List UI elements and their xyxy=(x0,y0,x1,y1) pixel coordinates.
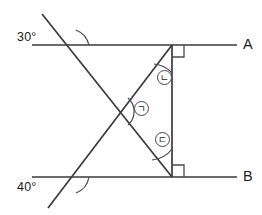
arc-30-degrees xyxy=(76,30,89,45)
angle-label-30: 30° xyxy=(17,31,37,44)
right-angle-bottom-icon xyxy=(172,165,184,177)
angle-label-40: 40° xyxy=(17,181,37,194)
angle-marker-giyeok: ㄱ xyxy=(134,101,149,116)
angle-marker-digeut: ㄷ xyxy=(155,132,170,147)
line-label-a: A xyxy=(243,37,253,52)
angle-marker-nieun: ㄴ xyxy=(157,70,172,85)
geometry-canvas xyxy=(0,0,262,215)
transversal-descending xyxy=(42,14,172,177)
right-angle-top-icon xyxy=(172,45,184,57)
line-label-b: B xyxy=(243,169,253,184)
transversal-ascending xyxy=(48,45,172,208)
arc-40-degrees xyxy=(76,177,89,193)
geometry-figure: 30° 40° A B ㄴ ㄱ ㄷ xyxy=(0,0,262,215)
